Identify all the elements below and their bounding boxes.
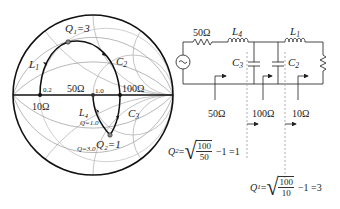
label-r-0.2: 0.2	[43, 87, 52, 94]
point-q2	[108, 133, 112, 137]
label-l1-chart: L1	[29, 59, 39, 72]
label-c3-circuit: C3	[232, 57, 243, 70]
label-100ohm-chart: 100Ω	[122, 84, 144, 94]
formula-q1: Q1 = √ 100 10 −1 =3	[250, 176, 322, 198]
point-q1	[66, 40, 70, 44]
formula-q2: Q2 = √ 100 50 −1 =1	[168, 140, 240, 162]
label-q2-point: Q₂=1	[96, 139, 121, 150]
label-source-resistor: 50Ω	[193, 28, 210, 38]
label-50ohm-chart: 50Ω	[67, 84, 84, 94]
sqrt-symbol: √	[266, 175, 278, 199]
sqrt-symbol: √	[184, 139, 196, 163]
source-resistor-icon	[193, 39, 212, 45]
matching-circuit	[176, 38, 326, 84]
label-c2-circuit: C2	[288, 57, 299, 70]
label-q1-point: Q₁=3	[65, 23, 90, 34]
label-l1-circuit: L1	[290, 26, 300, 39]
label-ref-50ohm: 50Ω	[208, 109, 225, 119]
label-10ohm-chart: 10Ω	[32, 102, 49, 112]
q-curve-1-upper	[0, 62, 206, 209]
label-c3-chart: C3	[128, 108, 139, 121]
load-resistor-icon	[320, 55, 326, 71]
q-curve-3-lower	[9, 0, 178, 153]
point-10ohm	[38, 93, 42, 97]
inductor-l1-icon	[285, 38, 305, 42]
label-q-curve-1: Q=1.0	[80, 120, 99, 127]
label-r-1.0: 1.0	[95, 88, 104, 95]
label-ref-10ohm: 10Ω	[292, 109, 309, 119]
label-q-curve-3: Q=3.0	[77, 146, 96, 153]
label-l4-chart: L4	[79, 108, 88, 120]
label-ref-100ohm: 100Ω	[252, 109, 274, 119]
label-l4-circuit: L4	[232, 26, 242, 39]
label-c2-chart: C2	[116, 56, 127, 69]
